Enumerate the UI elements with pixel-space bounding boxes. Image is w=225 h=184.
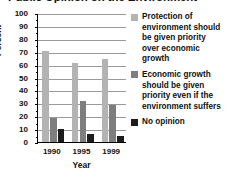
y-axis-label: 80 <box>4 36 28 44</box>
legend-label: No opinion <box>142 117 225 128</box>
chart-figure: Public Opinion on the Environment Percen… <box>0 0 225 184</box>
y-axis-title: Percent <box>0 25 3 56</box>
y-axis-label: 30 <box>4 100 28 108</box>
x-axis-label: 1999 <box>96 147 126 156</box>
bar-group <box>97 14 127 142</box>
legend-swatch-medium-icon <box>131 71 138 78</box>
x-axis-label: 1995 <box>67 147 97 156</box>
bar <box>72 63 78 142</box>
legend-item[interactable]: Protection of environment should be give… <box>131 12 225 65</box>
chart-title: Public Opinion on the Environment <box>8 0 218 3</box>
y-axis-label: 40 <box>4 87 28 95</box>
plot-area <box>37 14 126 143</box>
y-axis-tick <box>35 143 39 144</box>
bar <box>109 105 115 142</box>
bar <box>80 101 86 142</box>
y-axis-label: 90 <box>4 23 28 31</box>
bar-group <box>38 14 68 142</box>
bar <box>50 118 56 142</box>
x-axis-title: Year <box>37 160 126 170</box>
legend-item[interactable]: No opinion <box>131 117 225 128</box>
bar <box>117 136 123 142</box>
legend-swatch-dark-icon <box>131 119 138 126</box>
y-axis-label: 10 <box>4 126 28 134</box>
legend-item[interactable]: Economic growth should be given priority… <box>131 70 225 112</box>
y-axis-label: 50 <box>4 75 28 83</box>
y-axis-label: 20 <box>4 113 28 121</box>
bar <box>87 134 93 142</box>
chart-legend: Protection of environment should be give… <box>131 12 225 133</box>
bar-group <box>68 14 98 142</box>
y-axis-label: 70 <box>4 49 28 57</box>
y-axis-label: 60 <box>4 62 28 70</box>
bar <box>102 59 108 142</box>
legend-swatch-light-icon <box>131 14 138 21</box>
bar <box>42 51 48 142</box>
y-axis-label: 0 <box>4 139 28 147</box>
legend-label: Protection of environment should be give… <box>142 12 225 65</box>
bar <box>58 129 64 142</box>
legend-label: Economic growth should be given priority… <box>142 70 225 112</box>
y-axis-label: 100 <box>4 10 28 18</box>
x-axis-label: 1990 <box>37 147 67 156</box>
